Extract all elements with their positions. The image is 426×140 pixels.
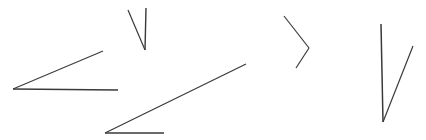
- narrow-v-top: [128, 8, 146, 50]
- chevron-right-upper-ray: [284, 16, 309, 48]
- wide-angle-bottom-diagonal-ray: [105, 64, 246, 133]
- narrow-v-right-right-ray: [383, 46, 413, 122]
- acute-angle-left: [13, 51, 118, 90]
- acute-angle-left-horizontal-ray: [13, 89, 118, 90]
- chevron-right: [284, 16, 309, 68]
- angle-figures-svg: [0, 0, 426, 140]
- chevron-right-lower-ray: [296, 48, 309, 68]
- acute-angle-left-upper-ray: [13, 51, 103, 89]
- narrow-v-top-left-ray: [128, 10, 145, 50]
- narrow-v-right: [381, 24, 413, 122]
- narrow-v-top-right-ray: [145, 8, 146, 50]
- angle-figures-canvas: [0, 0, 426, 140]
- narrow-v-right-left-ray: [381, 24, 383, 122]
- wide-angle-bottom: [105, 64, 246, 133]
